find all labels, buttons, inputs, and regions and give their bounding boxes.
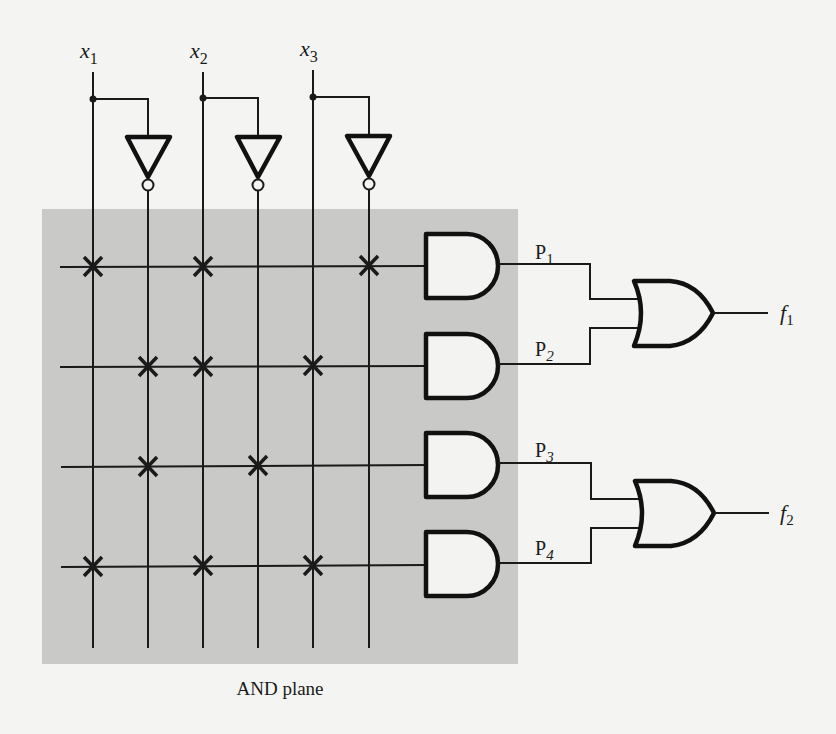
- and-gate-p3: [426, 433, 498, 497]
- or-gate-f1: [634, 281, 713, 346]
- product-label-p3: P3: [535, 439, 554, 465]
- output-label-f1: f1: [780, 300, 794, 328]
- product-label-p4: P4: [535, 537, 554, 563]
- or-gate-f2: [635, 481, 714, 546]
- product-wires: [498, 264, 641, 563]
- inverter-x1: [127, 137, 170, 191]
- inverter-x2: [237, 137, 280, 191]
- inverter-taps: [90, 94, 370, 137]
- and-plane-caption: AND plane: [236, 678, 323, 699]
- product-label-p2: P2: [535, 338, 554, 364]
- pla-diagram: x1 x2 x3: [0, 0, 836, 734]
- input-label-x2: x2: [189, 38, 208, 67]
- inverter-x3: [347, 136, 390, 190]
- and-gate-p4: [426, 532, 498, 596]
- output-label-f2: f2: [780, 500, 794, 528]
- and-gate-p2: [426, 334, 498, 398]
- and-gate-p1: [426, 234, 498, 298]
- input-label-x1: x1: [79, 38, 98, 67]
- input-label-x3: x3: [299, 36, 318, 65]
